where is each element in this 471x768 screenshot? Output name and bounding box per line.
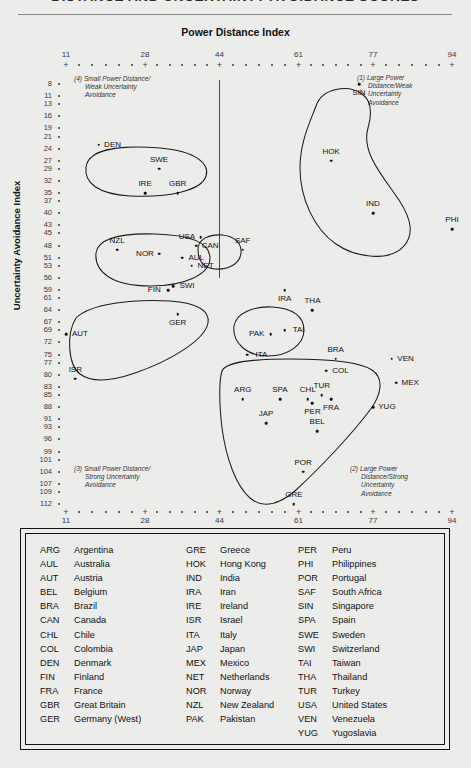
legend-country-code: GER	[40, 712, 74, 726]
data-point-marker	[307, 398, 310, 401]
quadrant-label-line: Avoidance	[350, 490, 408, 498]
legend-country-code: THA	[298, 670, 332, 684]
data-point-label: ITA	[255, 351, 267, 359]
legend-country-code: PER	[298, 543, 332, 557]
data-point-marker	[97, 143, 100, 146]
legend-country-code: POR	[298, 571, 332, 585]
legend-row: SAFSouth Africa	[298, 585, 387, 599]
legend-country-code: USA	[298, 698, 332, 712]
legend-country-code: HOK	[186, 557, 220, 571]
data-point-label: ARG	[234, 386, 251, 394]
legend-country-code: GRE	[186, 543, 220, 557]
legend-country-name: Israel	[220, 613, 242, 627]
data-point-label: SIN	[352, 89, 365, 97]
quadrant-label-line: Avoidance	[74, 91, 150, 99]
legend-country-code: VEN	[298, 712, 332, 726]
legend-row: AUTAustria	[40, 571, 141, 585]
quadrant-label-line: (3) Small Power Distance/	[74, 465, 150, 473]
legend-country-code: YUG	[298, 726, 332, 740]
legend-row: SWISwitzerland	[298, 642, 387, 656]
legend-row: AULAustralia	[40, 557, 141, 571]
legend-row: GERGermany (West)	[40, 712, 141, 726]
data-point-marker	[269, 333, 272, 336]
data-point-marker	[172, 285, 175, 288]
legend-country-code: TUR	[298, 684, 332, 698]
legend-country-code: MEX	[186, 656, 220, 670]
quadrant-label-line: (2) Large Power	[350, 465, 408, 473]
legend-country-name: Austria	[74, 571, 103, 585]
legend-row: PHIPhilippines	[298, 557, 387, 571]
data-point-marker	[358, 83, 361, 86]
legend-country-name: United States	[332, 698, 387, 712]
data-point-marker	[451, 228, 454, 231]
data-point-label: POR	[295, 459, 312, 467]
data-point-marker	[330, 398, 333, 401]
legend-country-name: Colombia	[74, 642, 113, 656]
quadrant-label-line: (4) Small Power Distance/	[74, 75, 150, 83]
legend-country-name: Singapore	[332, 599, 374, 613]
data-point-label: DEN	[104, 141, 121, 149]
data-point-label: PHI	[445, 216, 458, 224]
legend-country-name: South Africa	[332, 585, 382, 599]
legend-country-name: Italy	[220, 628, 237, 642]
legend-country-name: Portugal	[332, 571, 366, 585]
legend-country-name: New Zealand	[220, 698, 274, 712]
legend-country-name: Iran	[220, 585, 236, 599]
data-point-label: FRA	[323, 404, 339, 412]
legend-row: GBRGreat Britain	[40, 698, 141, 712]
data-point-label: SWI	[179, 282, 194, 290]
legend-country-code: CAN	[40, 613, 74, 627]
data-point-marker	[181, 256, 184, 259]
legend-country-name: Finland	[74, 670, 104, 684]
legend-row: PORPortugal	[298, 571, 387, 585]
data-point-marker	[158, 168, 161, 171]
legend-country-code: CHL	[40, 628, 74, 642]
legend-country-name: Ireland	[220, 599, 248, 613]
data-point-marker	[246, 353, 249, 356]
quadrant-label-line: Avoidance	[74, 481, 150, 489]
data-point-marker	[372, 406, 375, 409]
data-point-marker	[241, 398, 244, 401]
legend-row: TAITaiwan	[298, 656, 387, 670]
legend-row: NZLNew Zealand	[186, 698, 274, 712]
data-point-label: SPA	[272, 386, 287, 394]
legend-column: PERPeruPHIPhilippinesPORPortugalSAFSouth…	[298, 543, 387, 740]
legend-country-code: SIN	[298, 599, 332, 613]
quadrant-label-2: (2) Large PowerDistance/StrongUncertaint…	[350, 465, 408, 498]
legend-row: THAThailand	[298, 670, 387, 684]
data-point-marker	[190, 264, 193, 267]
data-point-marker	[116, 248, 119, 251]
data-point-label: JAP	[259, 410, 274, 418]
legend-country-code: SWI	[298, 642, 332, 656]
legend-row: FRAFrance	[40, 684, 141, 698]
legend-row: HOKHong Kong	[186, 557, 274, 571]
legend-row: SINSingapore	[298, 599, 387, 613]
legend-country-code: AUT	[40, 571, 74, 585]
legend-row: JAPJapan	[186, 642, 274, 656]
legend-country-name: Germany (West)	[74, 712, 141, 726]
data-point-label: IRA	[278, 295, 291, 303]
legend-column: ARGArgentinaAULAustraliaAUTAustriaBELBel…	[40, 543, 141, 726]
data-point-label: VEN	[397, 355, 413, 363]
data-point-marker	[279, 398, 282, 401]
legend-country-code: IRE	[186, 599, 220, 613]
legend-row: MEXMexico	[186, 656, 274, 670]
legend-row: NETNetherlands	[186, 670, 274, 684]
legend-country-name: Chile	[74, 628, 95, 642]
legend-country-code: FIN	[40, 670, 74, 684]
legend-row: INDIndia	[186, 571, 274, 585]
figure-title-clipped: DISTANCE AND UNCERTAINTY AVOIDANCE SCORE…	[0, 0, 471, 12]
data-point-marker	[302, 470, 305, 473]
legend-country-code: COL	[40, 642, 74, 656]
legend-country-code: IND	[186, 571, 220, 585]
legend-country-name: Spain	[332, 613, 356, 627]
legend-row: PAKPakistan	[186, 712, 274, 726]
legend-row: FINFinland	[40, 670, 141, 684]
legend-country-name: Canada	[74, 613, 106, 627]
legend-country-code: FRA	[40, 684, 74, 698]
legend-country-code: NET	[186, 670, 220, 684]
legend-row: PERPeru	[298, 543, 387, 557]
legend-country-name: Philippines	[332, 557, 376, 571]
data-point-label: IND	[366, 200, 380, 208]
data-point-label: SWE	[150, 156, 168, 164]
